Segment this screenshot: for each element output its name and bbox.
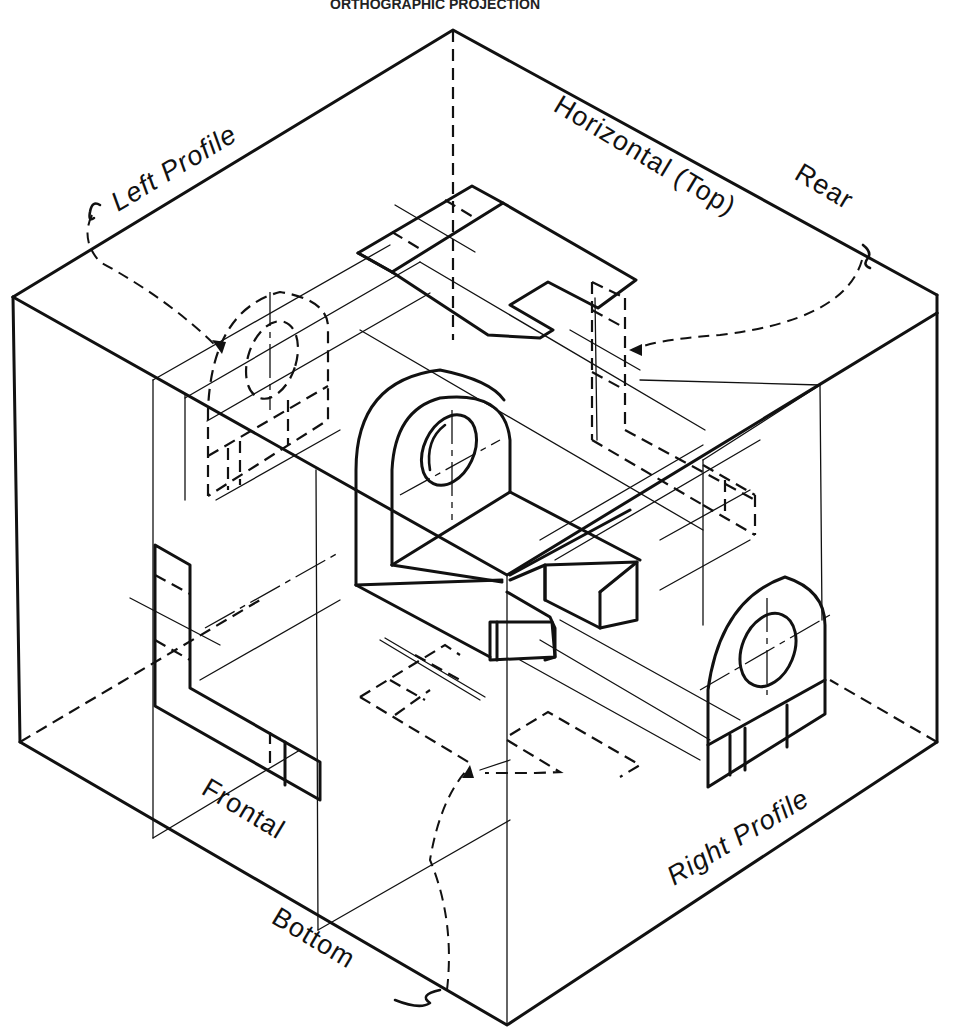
arrowhead-icon [462, 765, 474, 778]
top-view [358, 186, 636, 338]
leaders [88, 204, 871, 1006]
label-rear: Rear [790, 157, 859, 215]
label-left-profile: Left Profile [106, 119, 242, 217]
front-view [130, 545, 340, 800]
brace-icon [395, 990, 440, 1006]
glass-box-diagram: ORTHOGRAPHIC PROJECTION [0, 0, 958, 1029]
right-profile-view [700, 577, 835, 787]
figure-caption: ORTHOGRAPHIC PROJECTION [330, 0, 540, 12]
arrowhead-icon [629, 344, 642, 356]
arrowhead-icon [212, 340, 226, 354]
label-horizontal-top: Horizontal (Top) [549, 89, 742, 221]
